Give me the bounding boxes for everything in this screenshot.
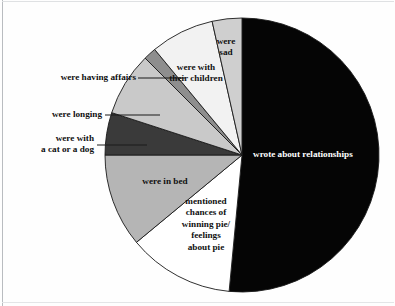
chart-page: were having affairs were longing were wi… bbox=[0, 0, 395, 306]
label-children-line2: their children bbox=[150, 73, 242, 84]
label-were-with-their-children: were with their children bbox=[150, 62, 242, 85]
label-cat-dog-line2: a cat or a dog bbox=[12, 144, 94, 155]
label-pie-line4: feelings bbox=[165, 230, 247, 241]
label-were-in-bed: were in bed bbox=[120, 176, 210, 187]
label-were-having-affairs: were having affairs bbox=[12, 72, 136, 83]
label-pie-line1: mentioned bbox=[165, 196, 247, 207]
label-sad-line1: were bbox=[205, 36, 247, 47]
label-children-line1: were with bbox=[150, 62, 242, 73]
label-pie-line2: chances of bbox=[165, 207, 247, 218]
label-having-affairs-text: were having affairs bbox=[61, 72, 136, 82]
label-in-bed-text: were in bed bbox=[142, 176, 187, 186]
label-pie-line3: winning pie/ bbox=[165, 219, 247, 230]
label-longing-text: were longing bbox=[52, 109, 102, 119]
label-wrote-about-relationships: wrote about relationships bbox=[253, 149, 385, 160]
label-pie-line5: about pie bbox=[165, 242, 247, 253]
label-were-sad: were sad bbox=[205, 36, 247, 59]
label-relationships-text: wrote about relationships bbox=[253, 149, 353, 159]
label-were-with-a-cat-or-a-dog: were with a cat or a dog bbox=[12, 133, 94, 156]
label-sad-line2: sad bbox=[205, 47, 247, 58]
label-mentioned-chances-of-winning-pie: mentioned chances of winning pie/ feelin… bbox=[165, 196, 247, 253]
label-were-longing: were longing bbox=[12, 109, 102, 120]
label-cat-dog-line1: were with bbox=[12, 133, 94, 144]
